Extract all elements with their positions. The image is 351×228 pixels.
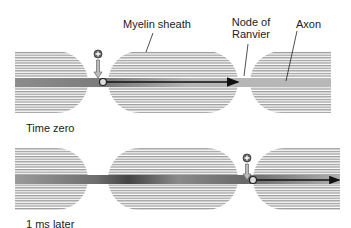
- node-marker: [250, 177, 257, 184]
- saltatory-conduction-diagram: [0, 0, 351, 228]
- panel-time-zero: [15, 31, 331, 113]
- node-of-ranvier-label: Node of Ranvier: [229, 16, 273, 40]
- down-arrow-icon: [94, 60, 102, 78]
- node-marker: [100, 79, 107, 86]
- panel-1-ms-later: [15, 148, 340, 210]
- node-of-ranvier-line1: Node of: [229, 16, 273, 28]
- time-zero-caption: Time zero: [26, 122, 75, 134]
- myelin-sheath-label: Myelin sheath: [123, 18, 191, 30]
- axon-label: Axon: [296, 18, 321, 30]
- node-of-ranvier-line2: Ranvier: [229, 28, 273, 40]
- one-ms-later-caption: 1 ms later: [26, 218, 74, 228]
